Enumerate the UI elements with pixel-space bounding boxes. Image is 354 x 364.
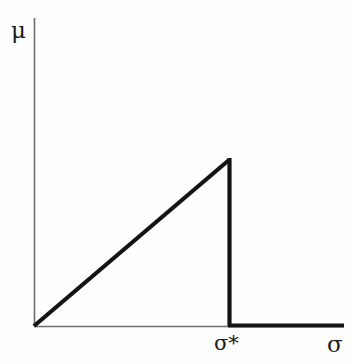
- sigma-star-tick-label: σ*: [214, 333, 239, 354]
- x-axis-label: σ: [327, 333, 343, 356]
- curve-rising-segment: [34, 160, 229, 326]
- figure-container: μ σ* σ: [0, 0, 354, 364]
- y-axis-label: μ: [11, 19, 26, 42]
- plot-area: [0, 0, 354, 364]
